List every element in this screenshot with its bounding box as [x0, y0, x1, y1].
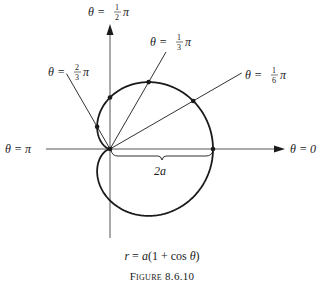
svg-text:θ =: θ = [48, 65, 65, 79]
svg-text:π: π [83, 65, 90, 79]
ray-2pi-over-3 [66, 74, 110, 149]
marked-point [108, 95, 113, 100]
vertical-axis-arrowhead [107, 24, 114, 35]
ray-label-pi-over-3: θ = 1 3 π [150, 33, 192, 52]
marked-point [95, 124, 100, 129]
angle-rays [66, 52, 241, 149]
marked-points [95, 80, 215, 152]
svg-text:θ =: θ = [150, 35, 167, 49]
dimension-brace [111, 150, 213, 160]
svg-text:3: 3 [177, 43, 181, 52]
vertical-axis-label: θ = 1 2 π [88, 3, 130, 22]
svg-text:1: 1 [272, 66, 276, 75]
equation-body: (1 + cos [148, 249, 190, 263]
equation-equals: = [129, 249, 142, 263]
polar-axis-arrowhead [274, 146, 285, 153]
dimension-label: 2a [154, 164, 166, 178]
svg-text:π: π [185, 35, 192, 49]
cardioid-diagram: 2a θ = 0 θ = π θ = 1 2 π θ = 1 3 π θ = 2… [0, 0, 324, 245]
origin-point [108, 147, 113, 152]
svg-text:π: π [123, 5, 130, 19]
equation-close: ) [196, 249, 200, 263]
polar-axis-label: θ = 0 [290, 142, 316, 156]
ray-pi-over-3 [110, 52, 166, 149]
marked-point [191, 99, 196, 104]
svg-text:1: 1 [177, 33, 181, 42]
svg-text:2: 2 [115, 13, 119, 22]
svg-text:1: 1 [115, 3, 119, 12]
svg-text:2: 2 [75, 63, 79, 72]
figure-caption: Figure 8.6.10 [0, 270, 324, 282]
marked-point [146, 80, 151, 85]
svg-text:θ =: θ = [245, 68, 262, 82]
svg-text:6: 6 [272, 76, 276, 85]
left-axis-label: θ = π [5, 142, 32, 156]
svg-text:3: 3 [75, 73, 79, 82]
svg-text:π: π [280, 68, 287, 82]
svg-text:θ =: θ = [88, 5, 105, 19]
ray-label-pi-over-6: θ = 1 6 π [245, 66, 287, 85]
curve-equation: r = a(1 + cos θ) [0, 249, 324, 264]
ray-label-2pi-over-3: θ = 2 3 π [48, 63, 90, 82]
